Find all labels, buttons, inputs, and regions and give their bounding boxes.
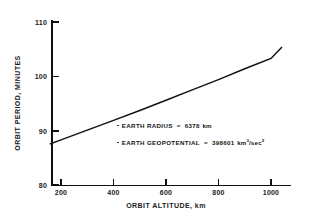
- annotation-label-earth-radius: EARTH RADIUS: [122, 122, 173, 130]
- annotation-earth-geopotential: EARTH GEOPOTENTIAL = 398601 km3/sec2: [117, 139, 302, 147]
- bullet-dot-icon: [117, 142, 119, 144]
- chart-plot-area: 110 100 90 80 200 400 600 800 1000 ORBIT…: [0, 0, 317, 218]
- annotation-units-earth-radius: km: [202, 122, 211, 130]
- annotation-units-earth-geopotential: km3/sec2: [237, 139, 264, 147]
- y-tick-label-110: 110: [35, 19, 47, 26]
- x-tick-label-800: 800: [212, 189, 224, 196]
- orbit-period-chart-figure: 110 100 90 80 200 400 600 800 1000 ORBIT…: [0, 0, 317, 218]
- x-tick-label-400: 400: [107, 189, 119, 196]
- y-tick-label-80: 80: [39, 182, 47, 189]
- annotation-label-earth-geopotential: EARTH GEOPOTENTIAL: [122, 139, 200, 147]
- chart-annotation-list: EARTH RADIUS = 6378 km EARTH GEOPOTENTIA…: [117, 122, 302, 156]
- x-tick-label-1000: 1000: [263, 189, 279, 196]
- annotation-units-exponent-2: 2: [262, 138, 264, 143]
- x-tick-label-600: 600: [160, 189, 172, 196]
- y-tick-label-90: 90: [39, 128, 47, 135]
- y-axis-title: ORBIT PERIOD, MINUTES: [14, 55, 22, 150]
- annotation-units-base: km: [237, 139, 246, 146]
- annotation-value-earth-geopotential: 398601: [212, 139, 235, 147]
- y-tick-label-100: 100: [35, 73, 47, 80]
- annotation-equals-earth-radius: =: [177, 122, 181, 130]
- x-tick-label-200: 200: [55, 189, 67, 196]
- bullet-dot-icon: [117, 125, 119, 127]
- x-axis-title: ORBIT ALTITUDE, km: [126, 202, 206, 210]
- annotation-value-earth-radius: 6378: [185, 122, 200, 130]
- annotation-earth-radius: EARTH RADIUS = 6378 km: [117, 122, 302, 130]
- annotation-units-denominator: /sec: [249, 139, 262, 146]
- annotation-equals-earth-geopotential: =: [204, 139, 208, 147]
